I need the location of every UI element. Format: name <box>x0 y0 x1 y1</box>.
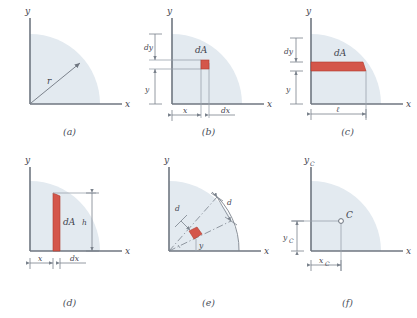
dim-yc-sub-label: C <box>289 237 294 244</box>
panel-a: r x y (a) <box>0 0 139 145</box>
y-axis-label: y <box>24 6 31 16</box>
panel-b-diagram: dA dy y x dx x y <box>139 0 278 126</box>
panel-a-diagram: r x y <box>0 0 139 126</box>
panel-d: dA h x dx x y (d) <box>0 145 139 318</box>
area-element-dA <box>201 60 209 69</box>
dim-h-label: h <box>82 218 87 227</box>
dim-x-label: x <box>38 254 43 263</box>
dim-dy-label: dy <box>144 43 154 52</box>
y-axis-main-label: y <box>303 155 310 165</box>
y-axis-sub-label: C <box>310 160 315 167</box>
panel-a-caption: (a) <box>0 126 139 137</box>
panel-e: d d y x y (e) <box>139 145 278 318</box>
dim-xc-main-label: x <box>319 256 324 265</box>
y-axis-label: y <box>24 155 31 165</box>
panel-c: dA dy y ℓ x y (c) <box>278 0 417 145</box>
panel-f: C y C x C x y C (f) <box>278 145 417 318</box>
centroid-label: C <box>346 210 353 220</box>
radius-label: r <box>47 76 52 86</box>
area-element-dA <box>311 62 366 71</box>
x-axis-label: x <box>125 99 130 109</box>
panel-b-caption: (b) <box>139 126 278 137</box>
quarter-disc-shade <box>30 34 100 104</box>
dim-y-label: y <box>285 85 291 94</box>
panel-c-caption: (c) <box>278 126 417 137</box>
y-axis-label: y <box>305 6 312 16</box>
area-element-dA <box>53 193 60 251</box>
area-element-label: dA <box>195 45 208 55</box>
y-axis-label: y <box>163 155 170 165</box>
dim-dx-label: dx <box>70 254 80 263</box>
panel-d-caption: (d) <box>0 297 139 308</box>
dim-dy-label: dy <box>284 47 294 56</box>
y-axis-label: y <box>166 6 173 16</box>
centroid-marker <box>339 219 344 224</box>
dim-d-radial-label: d <box>175 204 180 213</box>
dim-y-label: y <box>144 85 150 94</box>
panel-b: dA dy y x dx x y (b) <box>139 0 278 145</box>
dim-dx-label: dx <box>221 106 231 115</box>
dim-xc-sub-label: C <box>325 260 330 267</box>
panel-e-diagram: d d y x y <box>139 145 278 293</box>
x-axis-label: x <box>264 246 269 256</box>
x-axis-label: x <box>406 246 411 256</box>
x-axis-label: x <box>406 99 411 109</box>
panel-f-caption: (f) <box>278 297 417 308</box>
quarter-disc-shade <box>30 181 100 251</box>
panel-f-diagram: C y C x C x y C <box>278 145 417 293</box>
dim-d-arc-label: d <box>227 198 232 207</box>
x-axis-label: x <box>125 246 130 256</box>
dim-x-label: x <box>183 106 188 115</box>
figure-grid: r x y (a) dA <box>0 0 417 318</box>
panel-c-diagram: dA dy y ℓ x y <box>278 0 417 126</box>
dim-y-label: y <box>198 241 204 250</box>
area-element-label: dA <box>334 48 347 58</box>
panel-e-caption: (e) <box>139 297 278 308</box>
area-element-label: dA <box>63 217 76 227</box>
panel-d-diagram: dA h x dx x y <box>0 145 139 293</box>
dim-yc-main-label: y <box>282 233 288 242</box>
x-axis-label: x <box>267 99 272 109</box>
dim-length-label: ℓ <box>336 105 340 114</box>
